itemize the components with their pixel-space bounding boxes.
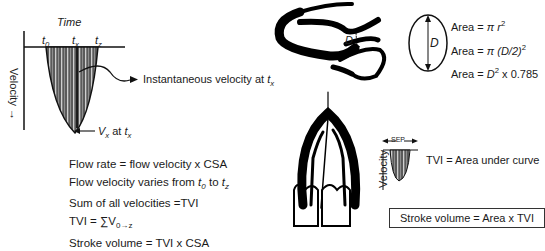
formula-block: Flow rate = flow velocity x CSA Flow vel… (69, 156, 229, 251)
area-formula-2: Area = π (D/2)2 (451, 43, 526, 57)
sep-label: SEP (391, 136, 405, 143)
tvi-area-label: TVI = Area under curve (426, 154, 539, 166)
velocity-curve (46, 47, 98, 133)
formula-stroke-volume: Stroke volume = TVI x CSA (69, 235, 229, 251)
small-velocity-label: Velocity (377, 150, 389, 188)
vx-label: Vx at tx (98, 125, 131, 140)
area-formula-3: Area = D2 x 0.785 (451, 66, 538, 80)
tick-t0: t0 (42, 34, 49, 49)
ellipse-diameter-label: D (430, 36, 439, 50)
time-axis-label: Time (57, 16, 81, 28)
tick-tz: tz (95, 34, 102, 49)
velocity-axis-label: Velocity → (8, 68, 20, 120)
formula-flow-velocity: Flow velocity varies from t0 to tz (69, 174, 229, 196)
stroke-volume-box: Stroke volume = Area x TVI (389, 208, 545, 228)
formula-flow-rate: Flow rate = flow velocity x CSA (69, 156, 229, 174)
area-formula-1: Area = π r2 (451, 19, 505, 33)
instantaneous-velocity-label: Instantaneous velocity at tx (143, 73, 274, 88)
diameter-label: D (345, 34, 353, 46)
formula-tvi: TVI = ∑V0→z (69, 213, 229, 235)
formula-sum-velocities: Sum of all velocities =TVI (69, 195, 229, 213)
cross-section-ellipse (409, 15, 447, 71)
tick-tx: tx (72, 34, 79, 49)
heart-illustration (279, 4, 384, 226)
